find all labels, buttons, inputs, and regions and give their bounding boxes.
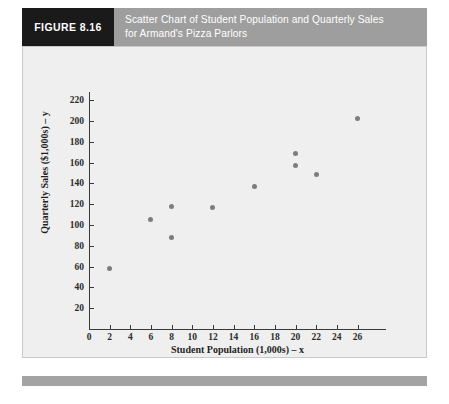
x-axis-tick-label: 18 xyxy=(270,332,280,342)
y-axis-tick-label: 180 xyxy=(23,137,84,147)
x-axis-tick-label: 22 xyxy=(311,332,321,342)
chart-panel: Student Population (1,000s) – x Quarterl… xyxy=(22,46,427,358)
x-axis-tick-label: 16 xyxy=(249,332,259,342)
y-axis-tick-label-wrap: 60 xyxy=(23,267,84,277)
x-axis-tick-label: 14 xyxy=(229,332,239,342)
x-axis-tick xyxy=(172,325,173,329)
x-axis-tick xyxy=(110,325,111,329)
scatter-point xyxy=(355,116,360,121)
scatter-point xyxy=(148,217,153,222)
figure-header-band: FIGURE 8.16 Scatter Chart of Student Pop… xyxy=(22,8,427,46)
figure-number-tag: FIGURE 8.16 xyxy=(22,8,114,46)
scatter-point xyxy=(107,266,112,271)
y-axis-line xyxy=(89,92,90,330)
y-axis-tick-label-wrap: 140 xyxy=(23,183,84,193)
x-axis-tick-label: 10 xyxy=(188,332,198,342)
y-axis-tick-label: 220 xyxy=(23,95,84,105)
y-axis-tick-label: 60 xyxy=(23,262,84,272)
x-axis-tick-label: 20 xyxy=(291,332,301,342)
y-axis-tick xyxy=(90,121,94,122)
scatter-point xyxy=(210,205,215,210)
figure-caption: Scatter Chart of Student Population and … xyxy=(114,8,427,46)
y-axis-tick-label: 160 xyxy=(23,158,84,168)
scatter-plot-area: Student Population (1,000s) – x Quarterl… xyxy=(23,47,426,357)
y-axis-tick xyxy=(90,142,94,143)
y-axis-tick-label: 120 xyxy=(23,199,84,209)
figure-container: FIGURE 8.16 Scatter Chart of Student Pop… xyxy=(0,0,449,404)
figure-footer-band xyxy=(22,376,427,386)
x-axis-tick-label: 4 xyxy=(128,332,133,342)
x-axis-tick xyxy=(337,325,338,329)
x-axis-tick xyxy=(213,325,214,329)
scatter-point xyxy=(252,184,257,189)
y-axis-tick-label: 200 xyxy=(23,116,84,126)
x-axis-tick-label: 8 xyxy=(169,332,174,342)
y-axis-tick-label: 100 xyxy=(23,220,84,230)
y-axis-tick-label: 140 xyxy=(23,178,84,188)
y-axis-tick-label-wrap: 20 xyxy=(23,308,84,318)
y-axis-tick xyxy=(90,204,94,205)
scatter-point xyxy=(169,204,174,209)
y-axis-tick xyxy=(90,183,94,184)
x-axis-tick xyxy=(234,325,235,329)
y-axis-tick xyxy=(90,287,94,288)
scatter-point xyxy=(169,235,174,240)
x-axis-tick-label: 0 xyxy=(87,332,92,342)
y-axis-tick xyxy=(90,225,94,226)
x-axis-tick-label: 24 xyxy=(332,332,342,342)
y-axis-tick xyxy=(90,246,94,247)
x-axis-tick xyxy=(192,325,193,329)
x-axis-tick xyxy=(316,325,317,329)
scatter-point xyxy=(293,163,298,168)
y-axis-tick xyxy=(90,267,94,268)
scatter-point xyxy=(314,172,319,177)
y-axis-tick xyxy=(90,163,94,164)
x-axis-tick-label: 12 xyxy=(208,332,218,342)
y-axis-tick-label-wrap: 220 xyxy=(23,100,84,110)
figure-caption-line-2: for Armand's Pizza Parlors xyxy=(125,27,419,41)
scatter-point xyxy=(293,151,298,156)
x-axis-tick xyxy=(130,325,131,329)
x-axis-title: Student Population (1,000s) – x xyxy=(89,344,386,355)
y-axis-tick-label-wrap: 120 xyxy=(23,204,84,214)
x-axis-tick-label: 26 xyxy=(353,332,363,342)
figure-caption-line-1: Scatter Chart of Student Population and … xyxy=(125,13,419,27)
y-axis-tick-label-wrap: 100 xyxy=(23,225,84,235)
y-axis-tick xyxy=(90,308,94,309)
x-axis-tick xyxy=(254,325,255,329)
y-axis-tick-label-wrap: 40 xyxy=(23,287,84,297)
y-axis-tick-label-wrap: 180 xyxy=(23,142,84,152)
y-axis-tick-label-wrap: 160 xyxy=(23,163,84,173)
y-axis-tick xyxy=(90,100,94,101)
y-axis-tick-label: 40 xyxy=(23,282,84,292)
y-axis-tick-label: 20 xyxy=(23,303,84,313)
y-axis-tick-label: 80 xyxy=(23,241,84,251)
y-axis-tick-label-wrap: 80 xyxy=(23,246,84,256)
x-axis-tick xyxy=(358,325,359,329)
x-axis-tick-label: 2 xyxy=(107,332,112,342)
x-axis-line xyxy=(89,329,386,330)
x-axis-tick xyxy=(151,325,152,329)
x-axis-tick xyxy=(275,325,276,329)
x-axis-tick xyxy=(296,325,297,329)
y-axis-tick-label-wrap: 200 xyxy=(23,121,84,131)
x-axis-tick-label: 6 xyxy=(149,332,154,342)
